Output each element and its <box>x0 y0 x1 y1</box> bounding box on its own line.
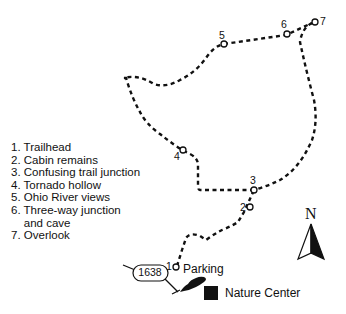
waypoint-6-marker[interactable] <box>284 31 290 37</box>
lake-shape <box>180 277 206 292</box>
waypoint-1-marker[interactable] <box>173 264 179 270</box>
trail-segment-7-to-3 <box>254 23 316 190</box>
north-arrow-right-half-icon <box>311 224 324 259</box>
legend-item: 5. Ohio River views <box>11 191 140 204</box>
trail-segment-5-to-7 <box>224 23 312 44</box>
legend-item: 2. Cabin remains <box>11 154 140 167</box>
legend-item: 3. Confusing trail junction <box>11 166 140 179</box>
legend-item: and cave <box>11 217 140 230</box>
nature-center-label: Nature Center <box>225 287 300 299</box>
map-legend: 1. Trailhead 2. Cabin remains 3. Confusi… <box>11 141 140 242</box>
waypoint-3-label: 3 <box>250 175 256 186</box>
north-label: N <box>305 206 317 222</box>
legend-item: 4. Tornado hollow <box>11 179 140 192</box>
legend-item: 7. Overlook <box>11 229 140 242</box>
waypoint-7-marker[interactable] <box>312 19 318 25</box>
north-arrow-left-half-icon <box>298 224 311 259</box>
waypoint-7-label: 7 <box>320 16 326 27</box>
legend-item: 6. Three-way junction <box>11 204 140 217</box>
parking-label: Parking <box>183 263 224 275</box>
route-number-label: 1638 <box>132 267 168 278</box>
waypoint-6-label: 6 <box>281 19 287 30</box>
waypoint-4-marker[interactable] <box>180 147 186 153</box>
waypoint-5-marker[interactable] <box>221 41 227 47</box>
legend-item: 1. Trailhead <box>11 141 140 154</box>
waypoint-5-label: 5 <box>219 30 225 41</box>
trail-segment-3-to-5 <box>124 44 254 190</box>
waypoint-2-label: 2 <box>240 202 246 213</box>
nature-center-building-icon <box>204 286 218 300</box>
waypoint-3-marker[interactable] <box>251 187 257 193</box>
waypoint-4-label: 4 <box>174 151 180 162</box>
waypoint-2-marker[interactable] <box>247 204 253 210</box>
